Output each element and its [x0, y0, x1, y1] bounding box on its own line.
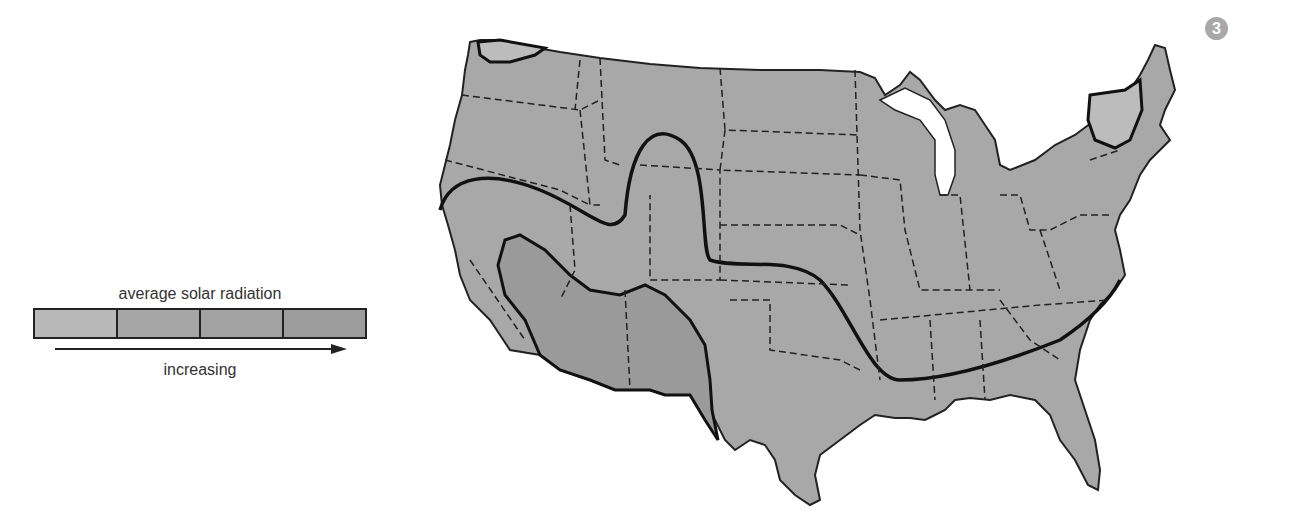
legend-swatch-1 [35, 310, 118, 337]
legend-caption: increasing [33, 361, 367, 379]
legend-swatch-4 [284, 310, 365, 337]
legend: average solar radiation increasing [33, 280, 367, 379]
legend-swatch-2 [118, 310, 201, 337]
us-solar-radiation-map [430, 28, 1210, 508]
increasing-arrow-icon [33, 339, 367, 363]
legend-bar [33, 308, 367, 339]
legend-title: average solar radiation [33, 280, 367, 308]
legend-swatch-3 [201, 310, 284, 337]
